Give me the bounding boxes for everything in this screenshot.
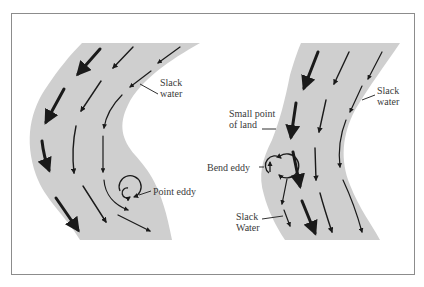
right-slack-water-bottom-label: Slack Water [236,211,260,233]
right-slack-water-top-label: Slack water [377,85,399,107]
left-slack-water-label: Slack water [160,77,182,99]
left-slack-water-line1: Slack [160,77,182,88]
bend-eddy-label: Bend eddy [207,162,250,173]
river-diagram [0,0,424,287]
left-river-channel [30,43,200,240]
right-slack-bottom-line2: Water [236,222,260,233]
right-river [259,43,400,240]
left-river [30,43,200,240]
right-slack-water-top-leader [362,95,375,100]
point-eddy-text: Point eddy [153,186,196,197]
point-eddy-label: Point eddy [153,186,196,197]
right-slack-top-line2: water [377,96,399,107]
left-slack-water-line2: water [160,88,182,99]
small-point-of-land-label: Small point of land [229,108,275,130]
bend-eddy-text: Bend eddy [207,162,250,173]
small-point-line2: of land [229,119,275,130]
right-slack-top-line1: Slack [377,85,399,96]
right-slack-bottom-line1: Slack [236,211,260,222]
small-point-line1: Small point [229,108,275,119]
right-river-channel [261,43,400,240]
left-slack-water-leader [140,84,158,94]
